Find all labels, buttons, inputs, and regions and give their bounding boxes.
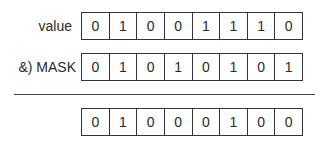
result-bits-row: 0 1 0 0 0 1 0 0 [81,108,303,136]
bit-cell: 1 [165,54,193,80]
mask-label: &) MASK [4,53,76,81]
bit-cell: 0 [275,13,302,39]
bit-cell: 0 [137,109,165,135]
bit-cell: 1 [110,109,138,135]
bit-cell: 1 [193,13,221,39]
bit-cell: 0 [193,54,221,80]
bit-cell: 0 [248,54,276,80]
bit-cell: 1 [220,54,248,80]
bit-cell: 0 [137,13,165,39]
bit-cell: 0 [137,54,165,80]
bit-cell: 0 [165,109,193,135]
mask-bits-row: 0 1 0 1 0 1 0 1 [81,53,303,81]
bit-cell: 1 [275,54,302,80]
result-divider-line [14,94,315,95]
bit-cell: 0 [82,13,110,39]
value-label: value [0,12,72,40]
bit-cell: 1 [110,13,138,39]
bit-cell: 0 [82,109,110,135]
bit-cell: 1 [220,109,248,135]
bit-cell: 0 [193,109,221,135]
value-bits-row: 0 1 0 0 1 1 1 0 [81,12,303,40]
bit-cell: 0 [165,13,193,39]
bit-cell: 1 [220,13,248,39]
bit-cell: 1 [110,54,138,80]
bit-cell: 1 [248,13,276,39]
bit-cell: 0 [275,109,302,135]
bit-cell: 0 [82,54,110,80]
bit-cell: 0 [248,109,276,135]
